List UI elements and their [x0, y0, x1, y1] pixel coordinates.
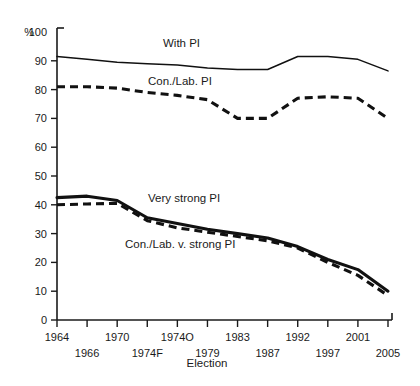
series-label-with-pi: With PI	[163, 37, 200, 49]
series-label-con-lab-pi: Con./Lab. PI	[148, 75, 212, 87]
y-axis-tick-labels: 0102030405060708090100	[29, 26, 47, 326]
x-axis-tick-labels: 1964196619701974F1974O197919831987199219…	[45, 331, 400, 359]
x-tick-label: 1987	[255, 347, 279, 359]
chart-container: 0102030405060708090100 1964196619701974F…	[0, 0, 420, 386]
x-tick-label: 1964	[45, 331, 69, 343]
y-tick-label: 60	[35, 141, 47, 153]
chart-series-lines	[57, 56, 388, 295]
y-tick-label: 30	[35, 228, 47, 240]
y-tick-label: 20	[35, 256, 47, 268]
x-tick-label: 1970	[105, 331, 129, 343]
y-tick-label: 90	[35, 55, 47, 67]
x-tick-label: 1974O	[161, 331, 194, 343]
x-tick-label: 1992	[285, 331, 309, 343]
y-tick-label: 70	[35, 112, 47, 124]
x-tick-label: 2001	[346, 331, 370, 343]
series-line-with-pi	[57, 56, 388, 70]
y-tick-label: 40	[35, 199, 47, 211]
y-tick-label: 50	[35, 170, 47, 182]
x-axis-title: Election	[187, 357, 228, 369]
line-chart-plot: 0102030405060708090100 1964196619701974F…	[0, 0, 420, 386]
y-tick-label: 80	[35, 84, 47, 96]
y-tick-label: 0	[41, 314, 47, 326]
x-tick-label: 1966	[75, 347, 99, 359]
x-tick-label: 1974F	[132, 347, 163, 359]
y-axis-unit-label: %	[24, 26, 34, 38]
x-tick-label: 1997	[316, 347, 340, 359]
series-label-con-lab-v-strong-pi: Con./Lab. v. strong PI	[125, 238, 235, 250]
chart-axes	[57, 28, 392, 320]
series-line-con-lab-pi	[57, 87, 388, 119]
x-tick-label: 1983	[225, 331, 249, 343]
x-tick-label: 2005	[376, 347, 400, 359]
y-tick-label: 10	[35, 285, 47, 297]
series-label-very-strong-pi: Very strong PI	[148, 192, 220, 204]
